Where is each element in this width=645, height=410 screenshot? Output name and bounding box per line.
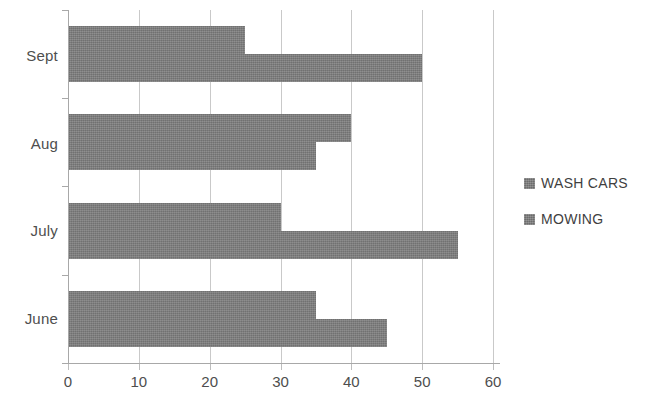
y-axis-category-label-1: Aug [0, 135, 58, 152]
x-axis-tick-10 [139, 364, 140, 370]
x-axis-line [68, 363, 500, 364]
grid-line-x-60 [493, 10, 494, 363]
y-axis-tick [62, 275, 68, 276]
y-axis-tick [62, 98, 68, 99]
bar-june-mowing[interactable] [68, 319, 387, 347]
bar-july-wash-cars[interactable] [68, 203, 281, 231]
bar-aug-wash-cars[interactable] [68, 114, 351, 142]
x-axis-tick-label-0: 0 [48, 373, 88, 390]
x-axis-tick-40 [351, 364, 352, 370]
x-axis-tick-label-60: 60 [473, 373, 513, 390]
y-axis-category-label-2: July [0, 222, 58, 239]
bar-july-mowing[interactable] [68, 231, 458, 259]
x-axis-tick-label-50: 50 [402, 373, 442, 390]
x-axis-tick-20 [210, 364, 211, 370]
x-axis-tick-60 [493, 364, 494, 370]
plot-area [68, 10, 493, 363]
y-axis-category-label-0: Sept [0, 47, 58, 64]
bar-sept-wash-cars[interactable] [68, 26, 245, 54]
y-axis-tick [62, 10, 68, 11]
legend-swatch-icon [524, 214, 535, 225]
chart-legend: WASH CARS MOWING [524, 175, 645, 247]
y-axis-tick [62, 186, 68, 187]
bar-sept-mowing[interactable] [68, 54, 422, 82]
x-axis-tick-0 [68, 364, 69, 370]
bar-aug-mowing[interactable] [68, 142, 316, 170]
grid-line-x-50 [422, 10, 423, 363]
x-axis-tick-50 [422, 364, 423, 370]
y-axis-line [68, 10, 69, 364]
x-axis-tick-30 [281, 364, 282, 370]
x-axis-tick-label-40: 40 [331, 373, 371, 390]
legend-item-wash-cars[interactable]: WASH CARS [524, 175, 645, 191]
x-axis-tick-label-10: 10 [119, 373, 159, 390]
bar-june-wash-cars[interactable] [68, 291, 316, 319]
legend-item-mowing[interactable]: MOWING [524, 211, 645, 227]
legend-swatch-icon [524, 178, 535, 189]
legend-label-wash-cars: WASH CARS [541, 175, 628, 191]
x-axis-tick-label-30: 30 [261, 373, 301, 390]
bar-chart: Sept Aug July June 0102030405060 WASH CA… [0, 0, 645, 410]
y-axis-category-label-3: June [0, 310, 58, 327]
legend-label-mowing: MOWING [541, 211, 603, 227]
x-axis-tick-label-20: 20 [190, 373, 230, 390]
